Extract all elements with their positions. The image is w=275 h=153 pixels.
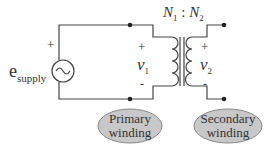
n2-sub: 2 — [199, 13, 204, 23]
terminal-dot — [128, 97, 133, 102]
secondary-winding-label: Secondary winding — [194, 112, 262, 140]
sine-icon — [56, 68, 70, 74]
v2-sub: 2 — [208, 66, 213, 76]
ratio-sep: : — [178, 4, 190, 20]
terminal-dot — [222, 23, 227, 28]
v2-plus: + — [201, 40, 208, 53]
source-label: esupply — [9, 62, 46, 84]
v2-main: v — [200, 55, 208, 74]
turns-ratio: N1 : N2 — [163, 5, 204, 23]
terminal-dot — [128, 23, 133, 28]
v1-minus: - — [140, 78, 144, 90]
secondary-line1: Secondary — [194, 112, 262, 126]
n2: N — [189, 4, 199, 20]
v1-label: v1 — [137, 56, 149, 76]
bottom-wire-primary — [59, 82, 130, 99]
secondary-line2: winding — [194, 126, 262, 140]
v1-sub: 1 — [145, 66, 150, 76]
source-label-sub: supply — [17, 72, 46, 84]
terminal-dot — [222, 97, 227, 102]
n1: N — [163, 4, 173, 20]
v1-plus: + — [138, 40, 145, 53]
source-label-main: e — [9, 61, 17, 81]
primary-line2: winding — [98, 126, 162, 140]
primary-coil-icon — [172, 37, 179, 86]
source-plus: + — [47, 38, 54, 51]
primary-line1: Primary — [98, 112, 162, 126]
v2-label: v2 — [200, 56, 212, 76]
secondary-coil-icon — [186, 37, 192, 86]
v2-minus: - — [203, 78, 207, 90]
v1-main: v — [137, 55, 145, 74]
top-wire-primary — [59, 25, 130, 60]
primary-winding-label: Primary winding — [98, 112, 162, 140]
